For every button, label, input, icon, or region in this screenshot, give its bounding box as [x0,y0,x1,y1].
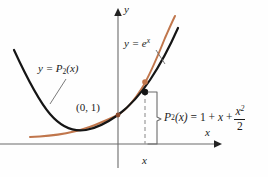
polynomial-curve-label-text: y = P [38,62,63,74]
formula-plus-one: + [209,112,216,124]
exponential-curve-label-text: y = e [124,37,147,49]
polynomial-formula: P2(x) = 1 + x +x22 [164,104,245,131]
polynomial-leader-line [50,79,66,104]
formula-term-x: x [218,112,223,124]
exponential-curve-label-exponent: x [147,36,150,45]
taylor-polynomial-curve [14,28,178,130]
tangent-point-label: (0, 1) [76,102,100,113]
exponential-curve-label: y = ex [124,37,150,49]
exponential-value-point [142,79,148,85]
taylor-polynomial-figure: y x x y = ex y = P2(x) (0, 1) P2(x) = 1 … [0,0,268,177]
x-axis-arrowhead [214,140,222,148]
formula-lhs-arg: (x) [175,112,188,124]
graph-canvas [0,0,268,177]
y-axis-label: y [124,4,129,15]
tangency-point-marker [116,113,121,118]
polynomial-curve-label: y = P2(x) [38,63,78,76]
value-brace [148,92,161,144]
formula-fraction-numerator-exponent: 2 [241,104,245,113]
formula-plus-two: + [226,112,233,124]
y-axis-arrowhead [114,8,122,16]
formula-fraction-numerator: x2 [234,105,245,119]
formula-term-one: 1 [200,112,206,124]
polynomial-curve-label-suffix: (x) [66,62,78,74]
formula-equals: = [191,112,198,124]
formula-lhs-base: P [164,112,171,124]
formula-fraction: x22 [234,105,245,132]
formula-fraction-denominator: 2 [236,120,244,133]
polynomial-value-point [142,89,148,95]
x-tick-label: x [142,155,147,166]
